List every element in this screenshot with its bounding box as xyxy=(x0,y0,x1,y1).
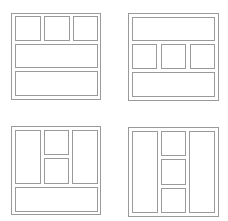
layout-cell xyxy=(190,44,215,69)
layout-cell xyxy=(73,16,98,41)
layout-cell xyxy=(15,130,41,184)
layout-cell xyxy=(15,187,98,212)
layout-cell xyxy=(161,131,186,156)
layout-cell xyxy=(44,130,69,155)
layout-cell xyxy=(72,130,98,184)
layout-cell xyxy=(15,71,98,96)
layout-cell xyxy=(189,131,215,213)
layout-cell xyxy=(132,44,157,69)
layout-cell xyxy=(132,72,215,97)
layout-cell xyxy=(161,44,186,69)
layout-cell xyxy=(161,188,186,213)
layout-cell xyxy=(15,44,98,68)
layout-cell xyxy=(161,159,186,185)
layout-cell xyxy=(44,16,70,41)
layout-cell xyxy=(132,17,215,41)
layout-cell xyxy=(15,16,41,41)
layout-cell xyxy=(132,131,158,213)
layout-cell xyxy=(44,158,69,184)
